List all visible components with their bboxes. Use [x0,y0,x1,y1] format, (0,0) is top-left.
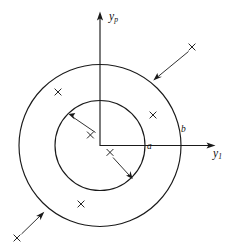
inner-radius-label: a [147,142,152,152]
marker-outside-bottom-left [14,235,21,242]
marker-annulus-upper-left [55,89,62,96]
x-axis-label-sub: 1 [218,152,222,161]
marker-outside-top-right [189,44,196,51]
figure-canvas [0,0,245,248]
annulus-figure: yp y1 a b [0,0,245,248]
marker-inner-upper [87,132,94,139]
marker-inner-lower [107,149,114,156]
x-axis-label: y1 [213,148,222,161]
y-axis-label: yp [109,11,118,24]
marker-annulus-lower [78,201,85,208]
marker-annulus-right [150,112,157,119]
inner-radius-arrow-upper-left-head-icon [68,113,75,120]
callout-arrow-top-right-line [158,52,189,78]
axes-group [97,12,216,149]
y-axis-label-sub: p [114,15,118,24]
markers-group [14,44,196,242]
callout-arrow-bottom-left-line [22,216,41,235]
inner-radius-arrow-lower-right-line [113,158,129,176]
outer-radius-label: b [181,125,186,135]
inner-radius-arrow-upper-left-line [73,117,96,133]
